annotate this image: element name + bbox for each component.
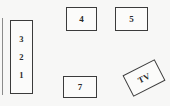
box-4-label: 4 (79, 15, 84, 24)
box-5-label: 5 (129, 15, 134, 24)
box-4-rectangle[interactable]: 4 (66, 7, 97, 31)
seat-stack-rectangle[interactable]: 3 2 1 (10, 20, 33, 94)
box-7-label: 7 (78, 83, 83, 92)
tv-label: TV (137, 71, 152, 84)
box-5-rectangle[interactable]: 5 (115, 7, 148, 31)
left-wall-line (2, 18, 3, 95)
box-7-rectangle[interactable]: 7 (63, 76, 97, 98)
tv-rectangle[interactable]: TV (123, 59, 166, 97)
seat-label-3: 3 (19, 35, 23, 44)
seat-label-1: 1 (19, 71, 23, 80)
seat-label-2: 2 (19, 53, 23, 62)
floor-plan-diagram: 3 2 1 4 5 7 TV (0, 0, 170, 106)
